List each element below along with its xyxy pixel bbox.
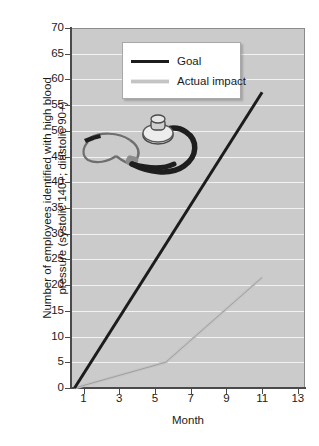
x-tick-mark <box>226 389 227 394</box>
legend-item-actual-impact: Actual impact <box>131 74 246 88</box>
y-tick-mark <box>65 362 71 363</box>
y-tick-label: 0 <box>34 382 64 393</box>
legend-label-actual-impact: Actual impact <box>177 75 246 87</box>
y-tick-label: 70 <box>34 22 64 33</box>
y-axis-title: Number of employees identified with high… <box>40 48 70 348</box>
gridline <box>72 285 304 286</box>
x-tick-mark <box>155 389 156 394</box>
gridline <box>72 208 304 209</box>
stethoscope-icon <box>74 106 210 204</box>
gridline <box>72 234 304 235</box>
x-tick-mark <box>84 389 85 394</box>
blood-pressure-line-chart: 0510152025303540455055606570 135791113 N… <box>0 0 319 446</box>
x-tick-mark <box>191 389 192 394</box>
legend-label-goal: Goal <box>177 55 201 67</box>
legend: Goal Actual impact <box>122 42 241 99</box>
y-tick-mark <box>65 28 71 29</box>
gridline <box>72 311 304 312</box>
gridline <box>72 362 304 363</box>
legend-swatch-goal <box>131 60 169 63</box>
gridline <box>72 28 304 29</box>
x-axis-title: Month <box>71 414 305 426</box>
legend-item-goal: Goal <box>131 54 201 68</box>
gridline <box>72 259 304 260</box>
legend-swatch-actual-impact <box>131 79 169 84</box>
y-tick-label: 5 <box>34 356 64 367</box>
x-tick-mark <box>262 389 263 394</box>
x-tick-mark <box>298 389 299 394</box>
y-tick-mark <box>65 388 71 389</box>
x-axis-line <box>70 387 306 389</box>
x-tick-mark <box>119 389 120 394</box>
gridline <box>72 337 304 338</box>
